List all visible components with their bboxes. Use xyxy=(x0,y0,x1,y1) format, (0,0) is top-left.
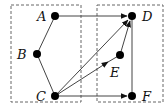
label-a: A xyxy=(36,9,46,24)
node-e xyxy=(116,51,124,59)
node-b xyxy=(33,50,41,58)
edge-c-d xyxy=(55,20,128,96)
node-a xyxy=(51,12,59,20)
node-d xyxy=(128,12,136,20)
label-e: E xyxy=(109,65,120,80)
label-d: D xyxy=(141,9,153,24)
node-f xyxy=(128,92,136,100)
label-b: B xyxy=(16,47,27,62)
node-c xyxy=(51,92,59,100)
label-c: C xyxy=(36,89,46,104)
label-f: F xyxy=(141,89,152,104)
graph-diagram: A B C D E F xyxy=(0,0,166,106)
right-group-box xyxy=(97,5,163,102)
